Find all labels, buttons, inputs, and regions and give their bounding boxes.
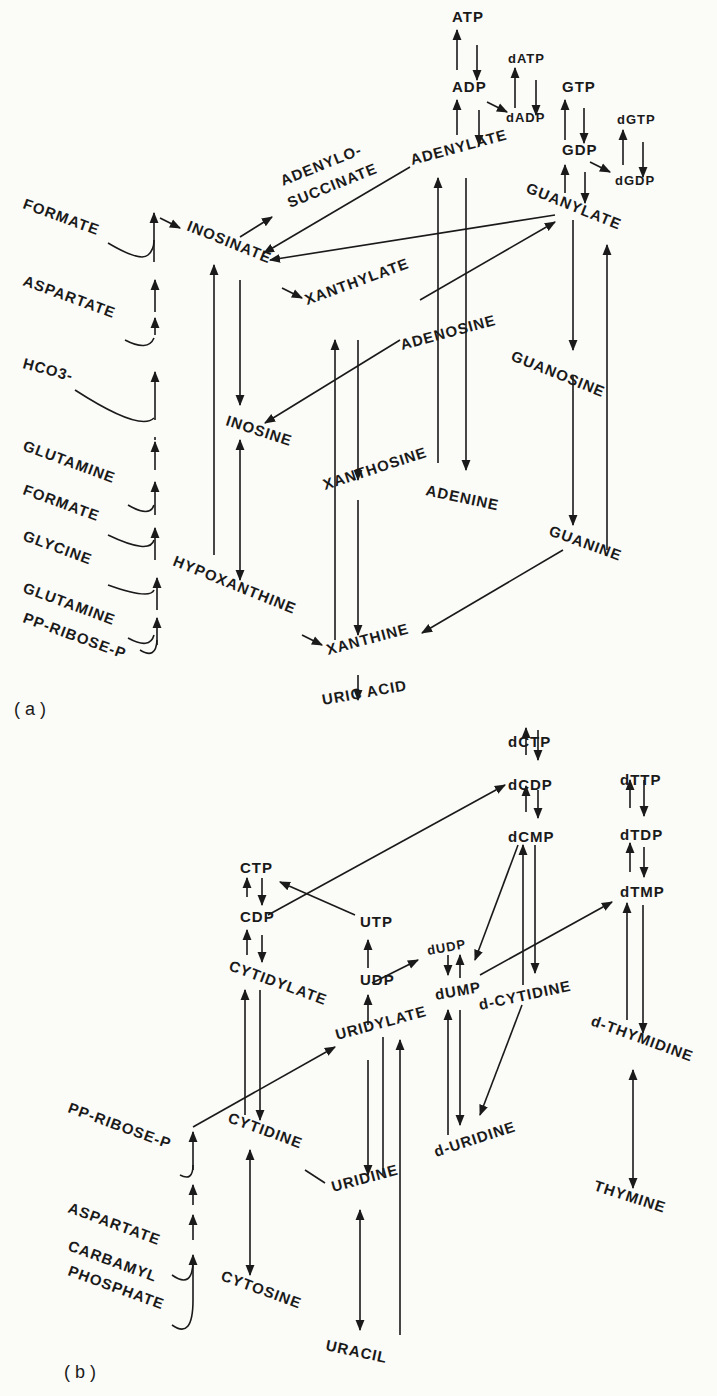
- node-dcmp: dCMP: [508, 828, 555, 845]
- precursor-pp-ribose-p-b: PP-RIBOSE-P: [66, 1099, 174, 1152]
- node-cytidylate: CYTIDYLATE: [227, 957, 330, 1008]
- node-adenine: ADENINE: [424, 481, 500, 513]
- node-gtp: GTP: [562, 78, 596, 95]
- node-dtdp: dTDP: [620, 826, 663, 843]
- node-xanthylate: XANTHYLATE: [302, 254, 411, 308]
- node-guanosine: GUANOSINE: [509, 347, 608, 400]
- node-adenosine: ADENOSINE: [398, 311, 497, 353]
- pathway-diagram: FORMATE ASPARTATE HCO3- GLUTAMINE FORMAT…: [0, 0, 717, 1396]
- precursor-aspartate: ASPARTATE: [21, 272, 118, 321]
- node-uridylate: URIDYLATE: [333, 1002, 428, 1043]
- panel-a: FORMATE ASPARTATE HCO3- GLUTAMINE FORMAT…: [14, 8, 656, 719]
- node-guanylate: GUANYLATE: [524, 179, 624, 233]
- node-dudp: dUDP: [426, 936, 467, 958]
- panel-label-a: ( a ): [14, 699, 46, 719]
- node-adenylate: ADENYLATE: [408, 126, 509, 168]
- node-dump: dUMP: [434, 978, 483, 1003]
- node-cytidine: CYTIDINE: [226, 1109, 305, 1152]
- metabolic-pathway-figure: FORMATE ASPARTATE HCO3- GLUTAMINE FORMAT…: [0, 0, 717, 1396]
- precursor-glutamine-1: GLUTAMINE: [21, 437, 118, 486]
- node-dgdp: dGDP: [615, 173, 655, 188]
- node-uracil: URACIL: [324, 1336, 389, 1366]
- reaction-arrows-a: [160, 30, 643, 700]
- node-uric-acid: URIC ACID: [321, 676, 409, 708]
- node-thymine: THYMINE: [592, 1177, 668, 1216]
- precursor-formate-2: FORMATE: [21, 481, 102, 524]
- node-dttp: dTTP: [620, 771, 662, 788]
- node-gdp: GDP: [562, 141, 598, 158]
- precursor-glycine: GLYCINE: [21, 527, 95, 568]
- node-cytosine: CYTOSINE: [219, 1267, 304, 1312]
- panel-label-b: ( b ): [64, 1362, 96, 1382]
- node-dcdp: dCDP: [508, 776, 553, 793]
- node-xanthosine: XANTHOSINE: [321, 443, 429, 493]
- node-guanine: GUANINE: [547, 522, 624, 564]
- node-xanthine: XANTHINE: [324, 620, 410, 658]
- node-ctp: CTP: [240, 859, 273, 876]
- node-dctp: dCTP: [508, 733, 551, 750]
- node-d-cytidine: d-CYTIDINE: [477, 977, 573, 1013]
- de-novo-chain-a: [75, 213, 157, 653]
- node-hypoxanthine: HYPOXANTHINE: [171, 552, 299, 617]
- precursor-bicarbonate: HCO3-: [21, 354, 75, 384]
- node-dadp: dADP: [506, 110, 545, 125]
- node-dgtp: dGTP: [617, 112, 656, 127]
- reaction-arrows-b: [172, 728, 644, 1335]
- node-utp: UTP: [360, 913, 393, 930]
- node-inosine: INOSINE: [224, 412, 295, 449]
- node-uridine: URIDINE: [329, 1161, 400, 1195]
- node-datp: dATP: [508, 51, 545, 66]
- node-dtmp: dTMP: [620, 883, 665, 900]
- precursor-formate-1: FORMATE: [21, 195, 102, 238]
- node-d-uridine: d-URIDINE: [432, 1117, 518, 1159]
- node-adp: ADP: [452, 78, 487, 95]
- node-cdp: CDP: [240, 908, 275, 925]
- panel-b: dCTP dCDP dCMP dTTP dTDP dTMP CTP CDP UT…: [64, 728, 696, 1382]
- node-atp: ATP: [452, 8, 484, 25]
